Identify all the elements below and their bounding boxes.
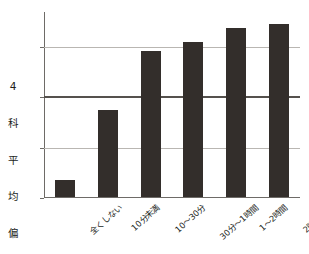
y-axis-line	[44, 12, 45, 198]
plot-area	[44, 12, 300, 198]
x-axis-line	[44, 197, 300, 198]
y-tick-mark	[40, 47, 44, 48]
bar	[226, 28, 246, 197]
y-axis-title: 4 科 平 均 偏 差 値	[6, 56, 20, 254]
y-axis-title-char: 偏	[6, 227, 20, 239]
bar	[98, 110, 118, 197]
x-tick-label: 1〜2時間	[258, 203, 290, 233]
x-tick-label: 10分未満	[130, 203, 162, 233]
x-tick-label: 10〜30分	[173, 203, 207, 235]
gridline	[44, 148, 300, 149]
bar	[183, 42, 203, 197]
gridline	[44, 96, 300, 98]
y-axis-title-char: 均	[6, 190, 20, 202]
y-tick-mark	[40, 97, 44, 98]
bar	[141, 51, 161, 197]
bar	[55, 180, 75, 197]
caption-fragment	[108, 236, 228, 252]
y-axis-title-char: 平	[6, 154, 20, 166]
gridline	[44, 47, 300, 48]
x-tick-label: 2時間以上	[301, 203, 309, 235]
y-axis-title-char: 4	[6, 80, 20, 92]
y-tick-mark	[40, 148, 44, 149]
y-axis-title-char: 科	[6, 117, 20, 129]
bar	[269, 24, 289, 197]
x-tick-label: 全くしない	[89, 203, 125, 236]
bar-chart: 4 科 平 均 偏 差 値 48495051 全くしない10分未満10〜30分3…	[0, 0, 309, 254]
